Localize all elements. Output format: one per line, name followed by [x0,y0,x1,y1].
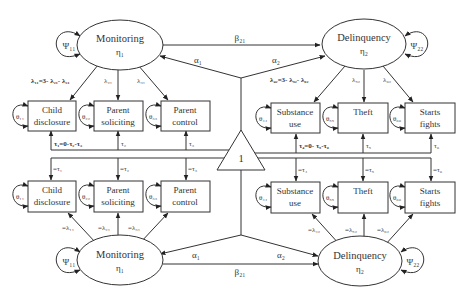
tau1-bottom-label: =τ₁ [53,165,62,173]
theta11-bottom-label: θ₁₁ [16,193,24,201]
tau6-top-label: τ₆ [434,142,440,150]
indicator-starts-fights-top: Starts fights θ₆₆ [390,103,455,133]
svg-text:soliciting: soliciting [101,197,135,207]
svg-text:Parent: Parent [174,105,197,115]
l62-top-label: λ₆₂ [383,76,392,84]
theta44-top-label: θ₄₄ [259,115,268,123]
alpha2-top-path [241,56,325,78]
svg-text:Substance: Substance [277,107,314,117]
psi11-top-label: Ψ₁₁ [63,41,76,51]
delinquency-bottom-name: Delinquency [333,250,387,261]
l52-top-label: λ₅₂ [352,76,361,84]
svg-text:fights: fights [420,119,441,129]
tau3-top-label: τ₃ [189,140,195,148]
tau3-bottom-label: =τ₃ [188,165,198,173]
tau5-bottom-label: =τ₅ [365,166,375,174]
indicator-parent-soliciting-top: Parent soliciting θ₂₂ [79,101,143,131]
l21-top-label: λ₂₁ [104,77,112,85]
loading-l62-top [383,66,413,102]
alpha1-bottom-path [160,235,241,254]
indicator-child-disclosure-top: Child disclosure θ₁₁ [13,101,76,131]
delinquency-top-name: Delinquency [337,32,391,43]
l52-bottom-label: =λ₅₂ [345,226,358,234]
tau4-bottom-label: =τ₄ [298,166,308,174]
tau6-bottom-label: =τ₆ [433,166,443,174]
indicator-substance-use-top: Substance use θ₄₄ [256,103,320,133]
svg-text:fights: fights [420,198,441,208]
svg-text:control: control [172,117,198,127]
l31-bottom-label: =λ₃₁ [128,224,140,232]
psi22-top-label: Ψ₂₂ [411,41,424,51]
tau1-top-label: τ₁=0-τ₂-τ₃ [54,140,82,148]
theta33-bottom-label: θ₃₃ [149,193,158,201]
indicator-starts-fights-bottom: Starts fights θ₆₆ [390,182,455,213]
theta44-bottom-label: θ₄₄ [259,194,268,202]
constant-label: 1 [238,153,243,164]
l42-bottom-label: =λ₄₂ [308,226,321,234]
svg-text:Starts: Starts [420,107,441,117]
monitoring-top-sym: η₁ [116,47,124,57]
l11-bottom-label: =λ₁₁ [62,224,74,232]
beta21-bottom-label: β₂₁ [235,267,246,277]
loading-l11-top [70,65,98,100]
theta55-bottom-label: θ₅₅ [326,194,335,202]
tau2-top-label: τ₂ [121,140,127,148]
svg-text:Child: Child [42,185,63,195]
alpha1-top-label: α₁ [194,55,202,65]
svg-text:Substance: Substance [277,186,314,196]
indicator-child-disclosure-bottom: Child disclosure θ₁₁ [13,181,76,212]
tau2-bottom-label: =τ₂ [120,165,130,173]
monitoring-bottom-sym: η₁ [116,263,124,273]
tau5-top-label: τ₅ [366,142,372,150]
indicator-theft-bottom: Theft θ₅₅ [323,182,388,213]
indicator-parent-soliciting-bottom: Parent soliciting θ₂₂ [79,181,143,212]
monitoring-top-ellipse [77,20,163,70]
delinquency-bottom-ellipse [318,236,402,286]
theta66-top-label: θ₆₆ [393,115,402,123]
svg-text:Theft: Theft [353,186,373,196]
l31-top-label: λ₃₁ [137,77,145,85]
l62-bottom-label: =λ₆₂ [377,226,390,234]
l42-top-label: λ₄₂=3- λ₅₂- λ₆₂ [270,76,309,84]
alpha1-bottom-label: α₁ [192,250,200,260]
delinquency-top-ellipse [322,19,406,69]
l11-top-label: λ₁₁=3- λ₂₁- λ₃₁ [31,77,70,85]
svg-text:use: use [289,198,301,208]
psi11-bottom-label: Ψ₁₁ [63,257,76,267]
theta55-top-label: θ₅₅ [326,115,335,123]
monitoring-bottom-ellipse [77,235,163,285]
svg-text:soliciting: soliciting [101,117,135,127]
svg-text:Starts: Starts [420,186,441,196]
delinquency-bottom-sym: η₂ [356,264,364,274]
svg-text:Child: Child [42,105,63,115]
theta11-top-label: θ₁₁ [16,113,24,121]
svg-text:disclosure: disclosure [34,197,71,207]
l21-bottom-label: =λ₂₁ [98,224,110,232]
indicator-theft-top: Theft θ₅₅ [323,103,388,133]
theta66-bottom-label: θ₆₆ [393,194,402,202]
svg-text:Parent: Parent [107,105,130,115]
sem-diagram: 1 Monitoring η₁ Delinquency η₂ Monitorin… [0,0,468,295]
svg-text:Parent: Parent [107,185,130,195]
theta22-top-label: θ₂₂ [82,113,91,121]
monitoring-top-name: Monitoring [96,33,145,44]
svg-text:use: use [289,119,301,129]
monitoring-bottom-name: Monitoring [96,249,145,260]
svg-text:Parent: Parent [174,185,197,195]
alpha2-bottom-label: α₂ [277,250,285,260]
theta33-top-label: θ₃₃ [149,113,158,121]
svg-text:disclosure: disclosure [34,117,71,127]
loading-l31-bottom [140,213,168,243]
loading-l42-top [314,66,345,102]
svg-text:Theft: Theft [353,107,373,117]
indicator-substance-use-bottom: Substance use θ₄₄ [256,182,320,213]
indicator-parent-control-top: Parent control θ₃₃ [146,101,210,131]
alpha2-top-label: α₂ [272,55,280,65]
indicator-parent-control-bottom: Parent control θ₃₃ [146,181,210,212]
theta22-bottom-label: θ₂₂ [82,193,91,201]
psi22-bottom-label: Ψ₂₂ [407,257,420,267]
svg-text:control: control [172,197,198,207]
tau4-top-label: τ₄=0- τ₅-τ₆ [299,142,329,150]
delinquency-top-sym: η₂ [360,46,368,56]
beta21-top-label: β₂₁ [235,33,246,43]
